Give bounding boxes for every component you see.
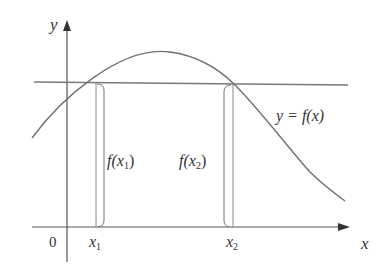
fx2-brace xyxy=(224,85,231,227)
x-axis-label: x xyxy=(360,234,369,253)
horizontal-line xyxy=(34,82,348,85)
y-axis-label: y xyxy=(48,15,58,34)
y-axis-arrow-icon xyxy=(63,20,71,31)
fx2-label: f(x2) xyxy=(179,152,206,171)
origin-label: 0 xyxy=(49,234,57,250)
fx1-brace xyxy=(97,84,104,227)
curve-equation-label: y = f(x) xyxy=(274,107,324,125)
function-curve xyxy=(32,51,345,201)
x1-label: x1 xyxy=(88,233,101,252)
x-axis-arrow-icon xyxy=(338,223,350,231)
fx1-label: f(x1) xyxy=(107,152,134,171)
diagram: y x 0 x1 x2 f(x1) f(x2) y = f(x) xyxy=(0,0,378,271)
x2-label: x2 xyxy=(225,233,238,252)
